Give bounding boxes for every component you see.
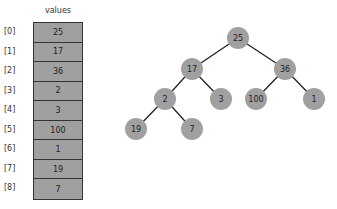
node-label: 2	[162, 95, 167, 104]
node-label: 36	[280, 65, 290, 74]
tree-nodes	[125, 27, 325, 140]
node-label: 17	[187, 65, 197, 74]
node-label: 100	[248, 95, 263, 104]
tree-edges	[136, 38, 314, 129]
node-label: 25	[233, 34, 243, 43]
node-label: 3	[218, 95, 223, 104]
heap-tree: 25 17 36 2 3 100 1 19 7	[0, 0, 337, 209]
node-label: 7	[189, 125, 194, 134]
node-label: 19	[131, 125, 141, 134]
node-label: 1	[311, 95, 316, 104]
